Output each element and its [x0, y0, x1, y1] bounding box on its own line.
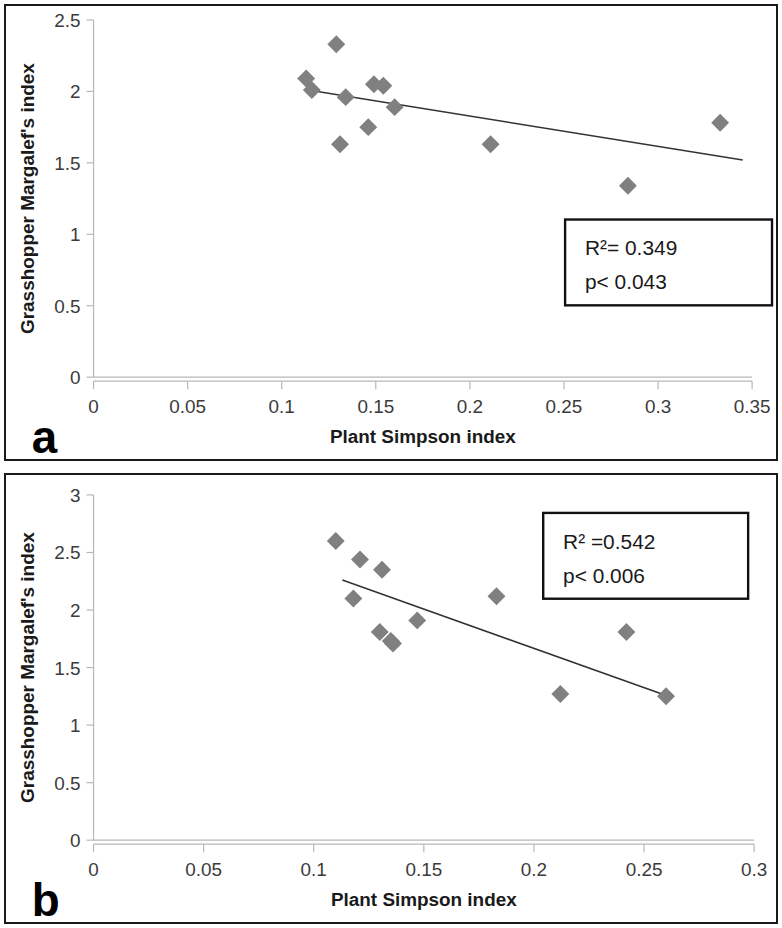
x-axis-tick-label: 0.1 — [301, 859, 327, 880]
data-point-marker — [327, 532, 345, 550]
x-axis-tick-label: 0.25 — [626, 859, 663, 880]
y-axis-tick-label: 1.5 — [54, 658, 80, 679]
x-axis-tick-label: 0.05 — [185, 859, 222, 880]
data-point-marker — [337, 88, 355, 106]
r-squared-label: R² =0.542 — [563, 530, 655, 553]
data-point-marker — [711, 114, 729, 132]
data-point-marker — [351, 550, 369, 568]
y-axis-title: Grasshopper Margalef's index — [17, 532, 38, 803]
r-squared-label: R²= 0.349 — [585, 236, 677, 259]
chart-panel-b: 00.511.522.5300.050.10.150.20.250.3Plant… — [4, 473, 778, 924]
x-axis-tick-label: 0.3 — [645, 396, 671, 417]
x-axis-tick-label: 0 — [88, 396, 99, 417]
data-point-marker — [657, 687, 675, 705]
data-point-marker — [344, 590, 362, 608]
y-axis-tick-label: 0.5 — [54, 773, 80, 794]
y-axis-tick-label: 1.5 — [54, 153, 80, 174]
x-axis-title: Plant Simpson index — [331, 889, 517, 910]
x-axis-tick-label: 0.35 — [734, 396, 771, 417]
x-axis-tick-label: 0.25 — [546, 396, 583, 417]
data-point-marker — [373, 561, 391, 579]
y-axis-tick-label: 2.5 — [54, 10, 80, 31]
figure-container: 00.511.522.500.050.10.150.20.250.30.35Pl… — [0, 0, 782, 928]
data-point-marker — [331, 135, 349, 153]
p-value-label: p< 0.043 — [585, 270, 667, 293]
panel-letter: a — [32, 412, 58, 459]
x-axis-tick-label: 0.15 — [405, 859, 442, 880]
x-axis-tick-label: 0.1 — [269, 396, 295, 417]
y-axis-tick-label: 0.5 — [54, 296, 80, 317]
data-point-marker — [551, 685, 569, 703]
y-axis-tick-label: 0 — [70, 830, 81, 851]
data-point-marker — [359, 118, 377, 136]
y-axis-tick-label: 1 — [70, 224, 81, 245]
x-axis-tick-label: 0 — [88, 859, 99, 880]
x-axis-title: Plant Simpson index — [330, 426, 516, 447]
x-axis-tick-label: 0.15 — [357, 396, 394, 417]
y-axis-tick-label: 3 — [70, 485, 81, 506]
y-axis-title: Grasshopper Margalef's index — [17, 63, 38, 334]
scatter-plot-a: 00.511.522.500.050.10.150.20.250.30.35Pl… — [6, 6, 776, 459]
data-point-marker — [327, 35, 345, 53]
data-point-marker — [482, 135, 500, 153]
data-point-marker — [617, 623, 635, 641]
y-axis-tick-label: 1 — [70, 715, 81, 736]
y-axis-tick-label: 2 — [70, 600, 81, 621]
data-point-marker — [488, 587, 506, 605]
x-axis-tick-label: 0.2 — [457, 396, 483, 417]
x-axis-tick-label: 0.05 — [169, 396, 206, 417]
data-point-marker — [619, 177, 637, 195]
x-axis-tick-label: 0.2 — [521, 859, 547, 880]
data-point-marker — [408, 611, 426, 629]
p-value-label: p< 0.006 — [563, 564, 645, 587]
y-axis-tick-label: 2 — [70, 81, 81, 102]
data-point-marker — [386, 98, 404, 116]
x-axis-tick-label: 0.3 — [741, 859, 767, 880]
y-axis-tick-label: 2.5 — [54, 542, 80, 563]
panel-letter: b — [32, 875, 60, 922]
chart-panel-a: 00.511.522.500.050.10.150.20.250.30.35Pl… — [4, 4, 778, 461]
scatter-plot-b: 00.511.522.5300.050.10.150.20.250.3Plant… — [6, 475, 776, 922]
y-axis-tick-label: 0 — [70, 367, 81, 388]
